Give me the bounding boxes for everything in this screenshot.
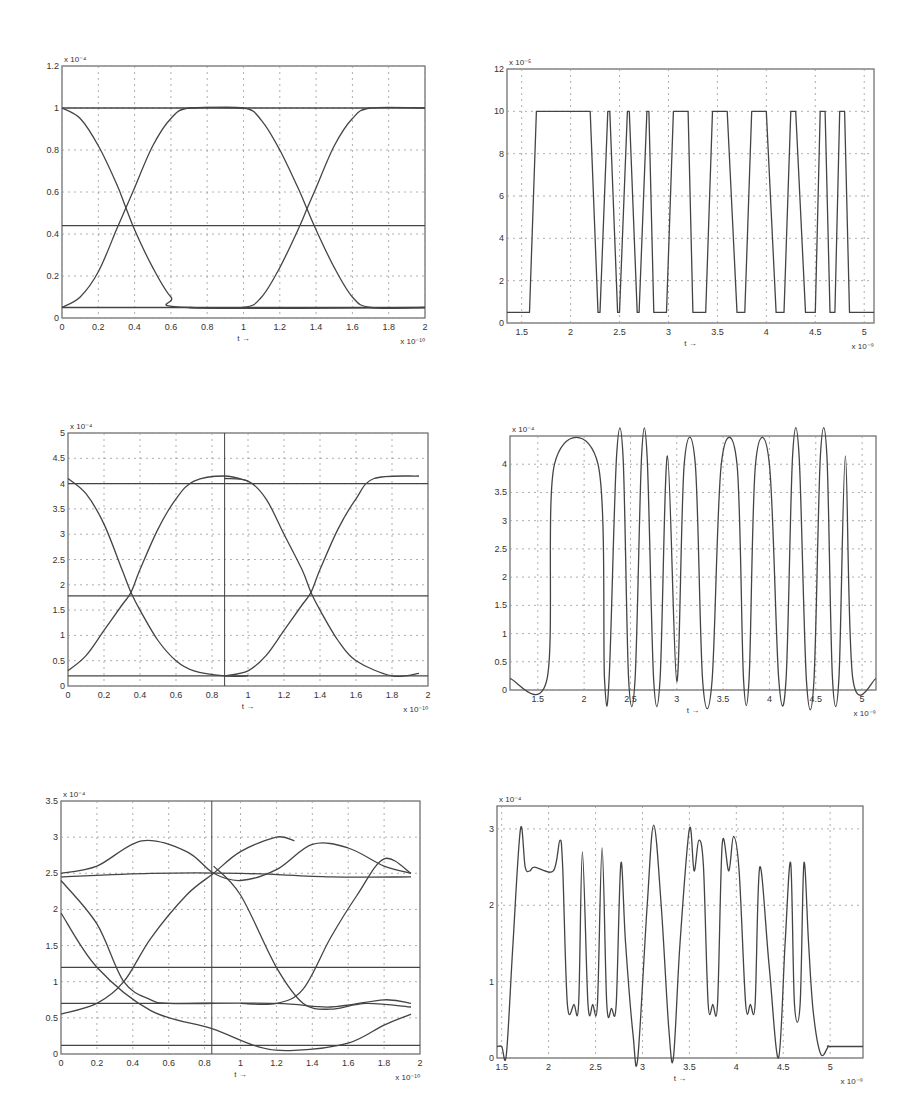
- x-tick-label: 0.4: [127, 1058, 140, 1068]
- x-tick-label: 1.5: [515, 327, 528, 337]
- y-multiplier: x 10⁻⁵: [509, 58, 531, 67]
- y-tick-label: 0.2: [46, 271, 59, 281]
- chart-panel-eye-stage3: 00.20.40.60.811.21.41.61.8200.511.522.53…: [0, 740, 460, 1117]
- x-tick-label: 0.4: [128, 322, 141, 332]
- x-tick-label: 1.8: [378, 1058, 391, 1068]
- x-tick-label: 5: [862, 327, 867, 337]
- x-tick-label: 1: [241, 322, 246, 332]
- x-tick-label: 0.4: [134, 690, 147, 700]
- x-tick-label: 2.5: [589, 1062, 602, 1072]
- x-tick-label: 1.8: [386, 690, 399, 700]
- y-tick-label: 4: [502, 459, 507, 469]
- x-tick-label: 1.8: [382, 322, 395, 332]
- x-tick-label: 1.6: [346, 322, 359, 332]
- plot-area: 00.20.40.60.811.21.41.61.8200.511.522.53…: [45, 790, 422, 1082]
- x-tick-label: 3: [666, 327, 671, 337]
- y-tick-label: 2: [499, 276, 504, 286]
- x-tick-label: 1.5: [532, 694, 545, 704]
- y-tick-label: 3: [502, 516, 507, 526]
- x-tick-label: 2: [422, 322, 427, 332]
- x-tick-label: 4: [734, 1062, 739, 1072]
- x-axis-label: t →: [684, 339, 696, 348]
- x-tick-label: 2.5: [613, 327, 626, 337]
- y-tick-label: 10: [494, 106, 504, 116]
- x-tick-label: 1.4: [306, 1058, 319, 1068]
- x-tick-label: 4.5: [810, 694, 823, 704]
- x-tick-label: 1.5: [495, 1062, 508, 1072]
- x-tick-label: 1.4: [310, 322, 323, 332]
- y-tick-label: 1: [502, 629, 507, 639]
- x-tick-label: 2: [417, 1058, 422, 1068]
- x-tick-label: 2: [546, 1062, 551, 1072]
- x-tick-label: 0.8: [198, 1058, 211, 1068]
- x-multiplier: x 10⁻⁹: [853, 709, 876, 718]
- x-tick-label: 0.6: [170, 690, 183, 700]
- waveform-stage2-plot: 1.522.533.544.5500.511.522.533.54x 10⁻⁴x…: [460, 370, 924, 740]
- plot-area: 1.522.533.544.550123x 10⁻⁴x 10⁻⁹t →: [489, 795, 863, 1086]
- y-tick-label: 1: [60, 630, 65, 640]
- y-tick-label: 1.2: [46, 61, 59, 71]
- y-tick-label: 0: [60, 681, 65, 691]
- x-axis-label: t →: [234, 1070, 246, 1079]
- x-tick-label: 1.4: [314, 690, 327, 700]
- y-tick-label: 2: [60, 580, 65, 590]
- y-multiplier: x 10⁻⁴: [63, 790, 86, 799]
- x-tick-label: 0.6: [162, 1058, 175, 1068]
- y-tick-label: 8: [499, 149, 504, 159]
- x-tick-label: 0.2: [92, 322, 105, 332]
- x-tick-label: 3: [674, 694, 679, 704]
- y-multiplier: x 10⁻⁴: [512, 425, 535, 434]
- y-tick-label: 3: [53, 832, 58, 842]
- x-tick-label: 3.5: [717, 694, 730, 704]
- x-tick-label: 0.6: [165, 322, 178, 332]
- x-multiplier: x 10⁻⁹: [851, 342, 874, 351]
- x-axis-label: t →: [242, 702, 254, 711]
- y-tick-label: 4: [499, 233, 504, 243]
- y-tick-label: 0.5: [45, 1013, 58, 1023]
- x-axis-label: t →: [237, 334, 249, 343]
- plot-area: 00.20.40.60.811.21.41.61.8200.20.40.60.8…: [46, 55, 427, 346]
- y-multiplier: x 10⁻⁴: [64, 55, 87, 64]
- x-tick-label: 2: [568, 327, 573, 337]
- y-tick-label: 5: [60, 428, 65, 438]
- x-tick-label: 5: [828, 1062, 833, 1072]
- x-tick-label: 4: [764, 327, 769, 337]
- chart-panel-eye-input: 00.20.40.60.811.21.41.61.8200.20.40.60.8…: [0, 0, 460, 370]
- y-tick-label: 1: [54, 103, 59, 113]
- x-tick-label: 1: [238, 1058, 243, 1068]
- y-tick-label: 3: [60, 529, 65, 539]
- y-tick-label: 0.5: [494, 657, 507, 667]
- x-tick-label: 0: [59, 322, 64, 332]
- y-tick-label: 2.5: [494, 544, 507, 554]
- x-multiplier: x 10⁻¹⁰: [395, 1073, 420, 1082]
- x-multiplier: x 10⁻⁹: [840, 1077, 863, 1086]
- x-multiplier: x 10⁻¹⁰: [400, 337, 425, 346]
- y-multiplier: x 10⁻⁴: [70, 422, 93, 431]
- y-tick-label: 0: [502, 685, 507, 695]
- plot-area: 00.20.40.60.811.21.41.61.8200.511.522.53…: [52, 422, 430, 714]
- x-tick-label: 1.6: [342, 1058, 355, 1068]
- x-axis-label: t →: [687, 706, 699, 715]
- x-tick-label: 0.2: [98, 690, 111, 700]
- waveform-input-plot: 1.522.533.544.55024681012x 10⁻⁵x 10⁻⁹t →: [460, 0, 924, 370]
- x-tick-label: 1.2: [270, 1058, 283, 1068]
- y-tick-label: 1.5: [494, 600, 507, 610]
- x-multiplier: x 10⁻¹⁰: [403, 705, 428, 714]
- x-tick-label: 1.2: [278, 690, 291, 700]
- y-tick-label: 1.5: [52, 605, 65, 615]
- y-tick-label: 1: [489, 977, 494, 987]
- plot-area: 1.522.533.544.55024681012x 10⁻⁵x 10⁻⁹t →: [494, 58, 874, 351]
- x-axis-label: t →: [674, 1074, 686, 1083]
- y-tick-label: 12: [494, 64, 504, 74]
- y-tick-label: 2: [53, 904, 58, 914]
- y-tick-label: 2: [502, 572, 507, 582]
- chart-panel-eye-stage2: 00.20.40.60.811.21.41.61.8200.511.522.53…: [0, 370, 460, 740]
- x-tick-label: 4.5: [809, 327, 822, 337]
- y-tick-label: 1.5: [45, 941, 58, 951]
- y-tick-label: 3.5: [52, 504, 65, 514]
- y-tick-label: 0: [489, 1053, 494, 1063]
- y-tick-label: 0.5: [52, 656, 65, 666]
- y-tick-label: 0: [499, 318, 504, 328]
- x-tick-label: 0.2: [91, 1058, 104, 1068]
- x-tick-label: 3: [640, 1062, 645, 1072]
